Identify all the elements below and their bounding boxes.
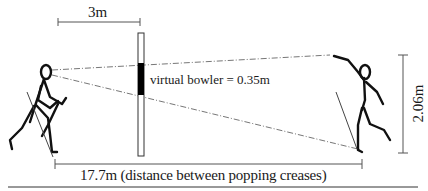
- screen-distance-label: 3m: [88, 5, 107, 20]
- sight-lines: [52, 55, 362, 150]
- virtual-bowler-label: virtual bowler = 0.35m: [150, 73, 270, 86]
- virtual-bowler-bar: [138, 63, 144, 95]
- dimension-2-06m: [398, 55, 408, 153]
- bowler-figure-icon: [334, 56, 390, 152]
- batsman-figure-icon: [10, 65, 66, 152]
- cricket-virtual-bowler-diagram: [0, 0, 428, 191]
- bowling-arm-line: [336, 92, 357, 149]
- bowler-height-label: 2.06m: [411, 80, 426, 128]
- crease-distance-label: 17.7m (distance between popping creases): [80, 168, 327, 183]
- projection-screen: [138, 33, 144, 156]
